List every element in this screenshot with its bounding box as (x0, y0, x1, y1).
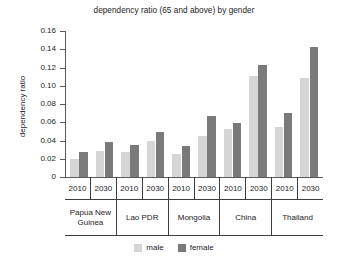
x-axis-year-cell: 2030 (298, 177, 323, 199)
bar-male-5 (198, 136, 207, 177)
bar-female-8 (284, 113, 293, 177)
x-axis-year-cell: 2010 (117, 177, 143, 199)
bar-male-8 (275, 127, 284, 177)
legend-item-female[interactable]: female (178, 243, 214, 252)
x-axis-year-cell: 2030 (143, 177, 169, 199)
bar-female-5 (207, 116, 216, 177)
x-axis-country-cell: Papua New Guinea (65, 200, 117, 236)
bar-female-7 (258, 65, 267, 177)
bar-male-0 (70, 159, 79, 177)
bar-male-1 (96, 151, 105, 177)
bar-male-7 (249, 76, 258, 177)
bar-female-9 (310, 47, 319, 177)
y-tick-label: 0.16 (10, 26, 56, 35)
x-axis-year-cell: 2030 (246, 177, 272, 199)
x-axis-year-cell: 2010 (65, 177, 91, 199)
y-tick-label: 0.12 (10, 63, 56, 72)
legend-swatch-icon (178, 244, 186, 252)
chart-legend: malefemale (0, 243, 348, 252)
y-tick-label: 0.02 (10, 154, 56, 163)
legend-item-male[interactable]: male (134, 243, 163, 252)
legend-label: female (190, 243, 214, 252)
bar-male-6 (224, 129, 233, 177)
chart-title: dependency ratio (65 and above) by gende… (0, 6, 348, 15)
bar-chart: dependency ratio (65 and above) by gende… (0, 0, 348, 265)
x-axis-year-cell: 2010 (169, 177, 195, 199)
bar-male-3 (147, 141, 156, 178)
y-tick-label: 0.06 (10, 117, 56, 126)
bar-male-4 (172, 154, 181, 177)
x-axis-country-cell: China (220, 200, 272, 236)
bar-male-2 (121, 152, 130, 177)
plot-area (66, 31, 322, 177)
y-tick-label: 0.08 (10, 99, 56, 108)
y-tick-label: 0.04 (10, 136, 56, 145)
y-tick-label: 0.10 (10, 81, 56, 90)
y-tick-label: 0.14 (10, 44, 56, 53)
bar-female-0 (79, 152, 88, 177)
x-axis-year-cell: 2030 (91, 177, 117, 199)
x-axis-year-cell: 2010 (272, 177, 298, 199)
y-tick-label: 0 (10, 172, 56, 181)
bar-female-2 (130, 145, 139, 177)
x-axis-bottom-rule (65, 235, 323, 236)
bar-female-4 (182, 146, 191, 177)
x-axis-year-cell: 2010 (220, 177, 246, 199)
x-axis-country-cell: Thailand (272, 200, 323, 236)
x-axis-country-cell: Lao PDR (117, 200, 169, 236)
x-axis-year-cell: 2030 (195, 177, 221, 199)
x-axis-country-row: Papua New GuineaLao PDRMongoliaChinaThai… (65, 199, 323, 236)
legend-label: male (146, 243, 163, 252)
legend-swatch-icon (134, 244, 142, 252)
bar-female-3 (156, 132, 165, 177)
x-axis-year-row: 2010203020102030201020302010203020102030 (65, 177, 323, 199)
x-axis-country-cell: Mongolia (169, 200, 221, 236)
bar-female-6 (233, 123, 242, 177)
bar-female-1 (105, 142, 114, 177)
bar-male-9 (300, 78, 309, 177)
x-axis-table: 2010203020102030201020302010203020102030… (65, 177, 323, 235)
